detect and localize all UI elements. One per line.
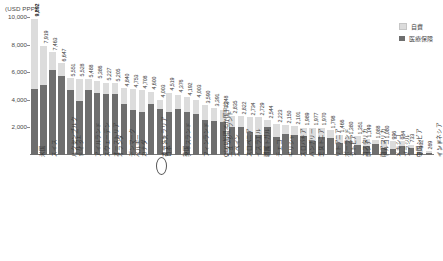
- stacked-bar[interactable]: 269: [426, 151, 432, 155]
- x-axis-label: フィンランド: [204, 122, 210, 157]
- x-axis-label: ブラジル: [405, 134, 411, 157]
- y-axis-tick-label: 2,000: [12, 123, 27, 130]
- stacked-bar[interactable]: 1,088: [372, 140, 378, 155]
- x-label-slot: イタリア: [209, 156, 218, 256]
- x-label-slot: スペイン: [218, 156, 227, 256]
- bar-slot[interactable]: 6,647: [57, 17, 66, 155]
- x-label-slot: コロンビア: [398, 156, 407, 256]
- x-axis-label: スペイン: [234, 134, 240, 157]
- x-axis-label: オランダ: [118, 134, 124, 157]
- x-label-slot: チリ: [308, 156, 317, 256]
- bar-segment-self-pay: [273, 124, 279, 137]
- x-label-slot: カナダ: [129, 156, 138, 256]
- bar-segment-self-pay: [264, 120, 270, 127]
- x-label-slot: ハンガリー: [290, 156, 299, 256]
- x-label-slot: コスタリカ: [344, 156, 353, 256]
- x-axis-label: チェコ: [276, 140, 282, 157]
- bar-segment-insurance: [58, 76, 64, 155]
- bar-value-label: 269: [428, 141, 433, 150]
- bar-segment-insurance: [85, 90, 91, 155]
- x-label-slot: イスラエル: [236, 156, 245, 256]
- x-label-slot: インド: [425, 156, 434, 256]
- legend-swatch-self-pay: [399, 23, 407, 30]
- x-axis-label: ドイツ: [79, 140, 85, 157]
- x-label-slot: オーストリア: [93, 156, 102, 256]
- x-label-slot: スロバキア: [281, 156, 290, 256]
- bar-segment-insurance: [426, 153, 432, 155]
- y-axis-tick-label: 8,000: [12, 41, 27, 48]
- x-label-slot: メキシコ: [380, 156, 389, 256]
- x-axis-label: インド: [438, 140, 443, 157]
- x-axis-label: イタリア: [225, 134, 231, 157]
- stacked-bar[interactable]: 4,003: [193, 100, 199, 155]
- x-label-slot: ドイツ: [66, 156, 75, 256]
- bar-segment-self-pay: [238, 116, 244, 127]
- x-label-slot: 中国: [407, 156, 416, 256]
- stacked-bar[interactable]: 4,600: [148, 92, 154, 155]
- bar-segment-insurance: [175, 109, 181, 156]
- legend-label-self-pay: 自費: [411, 22, 423, 31]
- bar-slot[interactable]: 3,391: [209, 17, 218, 155]
- x-axis-label: スイス: [52, 140, 58, 157]
- x-axis-label: アイルランド: [97, 122, 103, 157]
- bar-segment-insurance: [327, 138, 333, 155]
- x-label-slot: リトアニア: [317, 156, 326, 256]
- bar-slot[interactable]: 5,488: [84, 17, 93, 155]
- bar-slot[interactable]: 7,463: [48, 17, 57, 155]
- bar-segment-self-pay: [49, 52, 55, 70]
- stacked-bar[interactable]: 5,488: [85, 79, 91, 155]
- bar-slot[interactable]: 9,892: [30, 17, 39, 155]
- x-axis-label: イスラエル: [255, 128, 261, 157]
- bar-segment-self-pay: [139, 90, 145, 112]
- bar-slot[interactable]: 4,376: [174, 17, 183, 155]
- stacked-bar[interactable]: 4,376: [175, 95, 181, 155]
- x-axis-label: メキシコ: [396, 134, 402, 157]
- x-label-slot: ラトビア: [335, 156, 344, 256]
- legend-label-insurance: 医療保険: [409, 34, 433, 43]
- x-label-slot: アイルランド: [75, 156, 84, 256]
- x-label-slot: トルコ: [371, 156, 380, 256]
- bar-segment-self-pay: [112, 83, 118, 94]
- legend-item-insurance: 医療保険: [399, 34, 433, 43]
- bar-value-label: 9,892: [35, 4, 40, 17]
- x-axis-label: トルコ: [384, 140, 390, 157]
- x-axis-label: スロベニア: [246, 128, 252, 157]
- bar-slot[interactable]: 4,003: [191, 17, 200, 155]
- x-label-slot: スウェーデン: [84, 156, 93, 256]
- bar-segment-self-pay: [175, 95, 181, 109]
- x-label-slot: ノルウェー: [57, 156, 66, 256]
- x-label-slot: ルクセンブルク: [48, 156, 57, 256]
- x-label-slot: OECD加盟35か国平均: [191, 156, 200, 256]
- x-label-slot: エストニア: [299, 156, 308, 256]
- stacked-bar[interactable]: 9,892: [31, 19, 37, 156]
- stacked-bar[interactable]: 3,391: [211, 108, 217, 155]
- x-label-slot: ブラジル: [389, 156, 398, 256]
- x-label-slot: ニュージーランド: [200, 156, 209, 256]
- x-label-slot: インドネシア: [416, 156, 425, 256]
- x-label-slot: フランス: [147, 156, 156, 256]
- bar-slot[interactable]: 1,088: [371, 17, 380, 155]
- bar-segment-self-pay: [327, 130, 333, 138]
- x-label-slot: ベルギー: [120, 156, 129, 256]
- x-label-slot: ポルトガル: [245, 156, 254, 256]
- bar-segment-self-pay: [282, 125, 288, 134]
- x-label-slot: アイスランド: [165, 156, 174, 256]
- bar-segment-self-pay: [31, 19, 37, 90]
- bar-segment-self-pay: [121, 88, 127, 104]
- bar-slot[interactable]: 7,919: [39, 17, 48, 155]
- x-label-slot: 南アフリカ: [362, 156, 371, 256]
- bar-segment-insurance: [211, 121, 217, 155]
- bar-slot[interactable]: 2,223: [272, 17, 281, 155]
- x-label-slot: 米国: [30, 156, 39, 256]
- x-label-slot: 日本: [156, 156, 165, 256]
- x-label-slot: ギリシャ: [272, 156, 281, 256]
- bar-segment-self-pay: [193, 100, 199, 115]
- stacked-bar[interactable]: 6,647: [58, 63, 64, 155]
- bar-segment-insurance: [31, 89, 37, 155]
- x-axis-label: リトアニア: [336, 128, 342, 157]
- x-label-slot: チェコ: [263, 156, 272, 256]
- stacked-bar[interactable]: 1,798: [327, 130, 333, 155]
- bar-slot[interactable]: 4,600: [147, 17, 156, 155]
- stacked-bar[interactable]: 7,919: [40, 46, 46, 155]
